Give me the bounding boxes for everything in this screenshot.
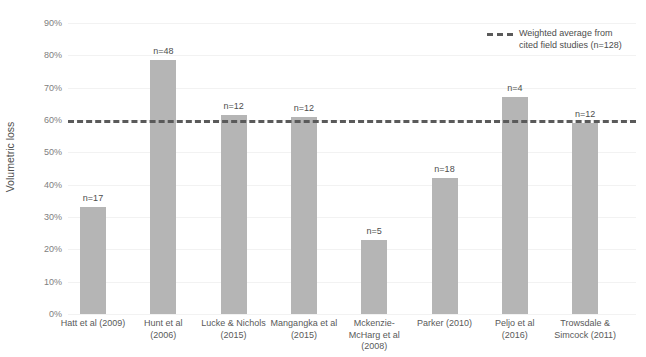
x-axis-category-label: Trowsdale & Simcock (2011) (548, 318, 622, 341)
x-axis-category-label: Mangangka et al (2015) (267, 318, 341, 341)
bar (150, 60, 176, 314)
bar-value-label: n=17 (63, 193, 123, 203)
bar-value-label: n=48 (133, 46, 193, 56)
legend: Weighted average from cited field studie… (487, 28, 622, 51)
x-axis-category-label: Parker (2010) (408, 318, 482, 330)
bar (502, 97, 528, 314)
bar-value-label: n=5 (344, 226, 404, 236)
x-axis-category-label: Hatt et al (2009) (56, 318, 130, 330)
bar-value-label: n=4 (485, 83, 545, 93)
bar-value-label: n=12 (555, 109, 615, 119)
legend-dashed-line-swatch-icon (487, 33, 513, 36)
bar (361, 240, 387, 314)
bar (291, 117, 317, 314)
volumetric-loss-bar-chart: Volumetric loss 90%80%70%60%50%40%30%20%… (0, 0, 646, 357)
x-axis-category-label: Lucke & Nichols (2015) (197, 318, 271, 341)
bar (80, 207, 106, 314)
x-axis-category-label: Mckenzie- McHarg et al (2008) (337, 318, 411, 353)
plot-area: n=17Hatt et al (2009)n=48Hunt et al (200… (0, 0, 646, 357)
legend-entry-label: Weighted average from cited field studie… (519, 28, 622, 51)
bar (432, 178, 458, 314)
bar (221, 115, 247, 314)
weighted-average-line (68, 120, 636, 123)
x-axis-category-label: Peljo et al (2016) (478, 318, 552, 341)
bar-value-label: n=12 (274, 103, 334, 113)
bar (572, 123, 598, 314)
bar-value-label: n=18 (415, 164, 475, 174)
bar-value-label: n=12 (204, 101, 264, 111)
x-axis-category-label: Hunt et al (2006) (126, 318, 200, 341)
